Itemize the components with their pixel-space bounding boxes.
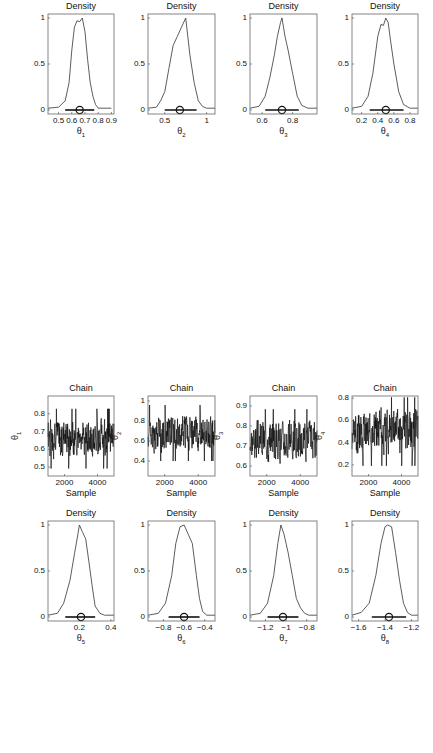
density-plot-panel: Density00.510.60.8θ3 xyxy=(250,14,317,114)
density-plot-panel: Density00.510.20.40.60.8θ4 xyxy=(352,14,418,114)
axes-frame xyxy=(148,14,215,114)
y-axis-label: θ1 xyxy=(10,432,22,440)
y-tick-label: 1 xyxy=(345,13,349,22)
panel-title: Chain xyxy=(48,383,114,393)
x-axis-label: Sample xyxy=(48,488,114,498)
x-tick-label: −1.6 xyxy=(347,623,371,632)
y-axis-label: θ2 xyxy=(110,432,122,440)
x-axis-label: θ6 xyxy=(148,633,215,645)
y-tick-label: 0.5 xyxy=(236,566,247,575)
x-tick-label: −1.2 xyxy=(399,623,423,632)
plot-area xyxy=(352,14,418,114)
y-tick-label: 1 xyxy=(141,396,145,405)
x-axis-label: θ7 xyxy=(250,633,317,645)
y-axis-label: θ4 xyxy=(314,432,326,440)
y-tick-label: 1 xyxy=(243,13,247,22)
x-tick-label: −1.4 xyxy=(373,623,397,632)
plot-area xyxy=(48,521,114,621)
plot-area xyxy=(148,521,215,621)
plot-area xyxy=(250,14,317,114)
trace-plot-panel: Chain0.60.70.80.9θ320004000Sample xyxy=(250,396,317,476)
panel-title: Chain xyxy=(352,383,418,393)
y-tick-label: 1 xyxy=(141,13,145,22)
y-tick-label: 1 xyxy=(345,520,349,529)
y-axis-label: θ3 xyxy=(212,432,224,440)
x-tick-label: 2000 xyxy=(53,478,77,487)
x-tick-label: 4000 xyxy=(390,478,414,487)
y-tick-label: 0.7 xyxy=(236,441,247,450)
y-tick-label: 1 xyxy=(41,520,45,529)
y-tick-label: 0.6 xyxy=(338,415,349,424)
x-tick-label: 0.9 xyxy=(99,116,123,125)
panel-title: Chain xyxy=(250,383,317,393)
x-tick-label: 4000 xyxy=(288,478,312,487)
y-tick-label: 0.6 xyxy=(34,444,45,453)
y-tick-label: 0.2 xyxy=(338,460,349,469)
x-tick-label: 0.4 xyxy=(99,623,123,632)
axes-frame xyxy=(148,521,215,621)
x-axis-label: Sample xyxy=(148,488,215,498)
trace-line xyxy=(352,397,418,466)
y-tick-label: 0 xyxy=(345,612,349,621)
y-tick-label: 0.5 xyxy=(134,59,145,68)
y-tick-label: 0 xyxy=(345,105,349,114)
y-tick-label: 0 xyxy=(243,105,247,114)
x-tick-label: 4000 xyxy=(86,478,110,487)
y-tick-label: 0.4 xyxy=(134,456,145,465)
x-axis-label: θ1 xyxy=(48,126,114,138)
axes-frame xyxy=(250,521,317,621)
plot-area xyxy=(250,521,317,621)
y-tick-label: 0 xyxy=(41,105,45,114)
y-tick-label: 0 xyxy=(243,612,247,621)
plot-area xyxy=(148,396,215,476)
y-tick-label: 1 xyxy=(243,520,247,529)
y-tick-label: 0.9 xyxy=(236,401,247,410)
x-tick-label: 2000 xyxy=(357,478,381,487)
plot-area xyxy=(48,396,114,476)
density-plot-panel: Density00.510.50.60.70.80.9θ1 xyxy=(48,14,114,114)
y-tick-label: 0.8 xyxy=(236,421,247,430)
y-tick-label: 0 xyxy=(41,612,45,621)
density-plot-panel: Density00.51−1.2−1−0.8θ7 xyxy=(250,521,317,621)
y-tick-label: 0.8 xyxy=(338,393,349,402)
y-tick-label: 0.5 xyxy=(338,59,349,68)
density-plot-panel: Density00.510.51θ2 xyxy=(148,14,215,114)
axes-frame xyxy=(352,521,418,621)
panel-title: Chain xyxy=(148,383,215,393)
panel-title: Density xyxy=(148,508,215,518)
y-tick-label: 0.7 xyxy=(34,427,45,436)
y-tick-label: 0.5 xyxy=(338,566,349,575)
plot-area xyxy=(250,396,317,476)
plot-area xyxy=(352,396,418,476)
x-tick-label: 0.6 xyxy=(250,116,274,125)
panel-title: Density xyxy=(352,508,418,518)
panel-title: Density xyxy=(48,508,114,518)
panel-title: Density xyxy=(148,1,215,11)
trace-plot-panel: Chain0.20.40.60.8θ420004000Sample xyxy=(352,396,418,476)
axes-frame xyxy=(48,521,114,621)
y-tick-label: 0.5 xyxy=(134,566,145,575)
y-tick-label: 0.6 xyxy=(236,461,247,470)
x-axis-label: θ2 xyxy=(148,126,215,138)
panel-title: Density xyxy=(48,1,114,11)
x-axis-label: θ3 xyxy=(250,126,317,138)
y-tick-label: 0.8 xyxy=(34,409,45,418)
y-tick-label: 1 xyxy=(41,13,45,22)
plot-area xyxy=(48,14,114,114)
y-tick-label: 0.8 xyxy=(134,416,145,425)
y-tick-label: 0 xyxy=(141,105,145,114)
y-tick-label: 0.5 xyxy=(34,59,45,68)
plot-area xyxy=(352,521,418,621)
x-axis-label: θ5 xyxy=(48,633,114,645)
x-tick-label: −0.8 xyxy=(295,623,319,632)
x-tick-label: −0.4 xyxy=(193,623,217,632)
y-tick-label: 0 xyxy=(141,612,145,621)
x-tick-label: 2000 xyxy=(153,478,177,487)
x-axis-label: θ8 xyxy=(352,633,418,645)
y-tick-label: 0.6 xyxy=(134,436,145,445)
x-tick-label: 0.5 xyxy=(153,116,177,125)
x-axis-label: Sample xyxy=(352,488,418,498)
x-axis-label: Sample xyxy=(250,488,317,498)
trace-plot-panel: Chain0.50.60.70.8θ120004000Sample xyxy=(48,396,114,476)
trace-plot-panel: Chain0.40.60.81θ220004000Sample xyxy=(148,396,215,476)
